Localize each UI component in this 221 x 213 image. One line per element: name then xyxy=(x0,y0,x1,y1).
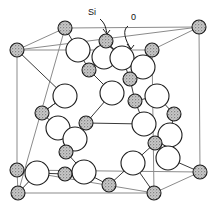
silicon-atom xyxy=(79,116,93,130)
oxygen-atom xyxy=(121,151,145,175)
oxygen-atom xyxy=(66,38,90,62)
oxygen-atom xyxy=(156,146,180,170)
oxygen-atom xyxy=(110,46,134,70)
silicon-atom xyxy=(128,94,142,108)
silicon-atom xyxy=(102,178,116,192)
silicon-atom xyxy=(145,43,159,57)
silicon-atom xyxy=(147,186,161,200)
silicon-atom xyxy=(11,186,25,200)
silicon-atom xyxy=(10,43,24,57)
silicon-atom xyxy=(167,107,181,121)
silicon-atom xyxy=(148,136,162,150)
silicon-atom xyxy=(82,63,96,77)
silicon-atom xyxy=(35,106,49,120)
label-o: 0 xyxy=(131,12,136,22)
silicon-atom xyxy=(58,167,72,181)
label-si: Si xyxy=(88,7,96,17)
silicon-atom xyxy=(10,163,24,177)
silicon-atom xyxy=(59,145,73,159)
cube-edge xyxy=(199,27,200,172)
si-leader xyxy=(100,19,107,34)
oxygen-atom xyxy=(53,84,77,108)
silicon-atom xyxy=(99,34,113,48)
cube-edge xyxy=(154,172,200,193)
crystal-structure-figure: Si 0 xyxy=(0,0,221,213)
oxygen-atom xyxy=(72,160,96,184)
unit-cell-svg: Si 0 xyxy=(0,0,221,213)
oxygen-atom xyxy=(100,81,124,105)
oxygen-atom xyxy=(25,161,49,185)
silicon-atom xyxy=(192,20,206,34)
silicon-atom xyxy=(193,165,207,179)
silicon-atom xyxy=(123,72,137,86)
oxygen-atom xyxy=(132,112,156,136)
oxygen-atom xyxy=(145,84,169,108)
cube-edge xyxy=(65,27,199,28)
silicon-atom xyxy=(58,21,72,35)
